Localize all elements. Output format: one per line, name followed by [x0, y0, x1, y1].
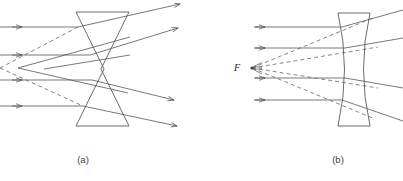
- optics-figure: (a): [0, 0, 403, 181]
- virtual-extension-b-1: [252, 17, 375, 68]
- refracted-ray-2: [90, 28, 178, 55]
- virtual-extension-b-4: [252, 68, 375, 119]
- concave-lens-outline-a: [76, 12, 129, 126]
- virtual-extension-b-2: [252, 47, 378, 68]
- refracted-ray-b-3: [345, 78, 403, 88]
- panel-b-incoming-rays: [254, 27, 345, 100]
- panel-b-virtual-extensions: [252, 17, 378, 119]
- panel-a-caption: (a): [77, 154, 89, 165]
- panel-a-incoming-rays: [0, 27, 92, 106]
- construction-line-2: [18, 68, 128, 93]
- panel-b-caption: (b): [332, 154, 344, 165]
- panel-a-refracted-rays: [78, 4, 180, 126]
- panel-a: (a): [0, 4, 180, 165]
- refracted-ray-b-4: [342, 100, 403, 121]
- focal-point-label: F: [233, 62, 241, 73]
- refracted-ray-1: [78, 4, 180, 27]
- panel-a-virtual-extensions: [0, 27, 83, 106]
- panel-a-construction-lines: [18, 37, 130, 93]
- panel-b: F (b): [233, 10, 403, 165]
- figure-canvas: (a): [0, 0, 403, 181]
- refracted-ray-4: [83, 106, 177, 126]
- refracted-ray-3: [92, 80, 174, 100]
- construction-line-1: [18, 37, 130, 68]
- focal-point-marker: [250, 66, 253, 69]
- panel-a-lens: [76, 12, 129, 126]
- refracted-ray-b-2: [345, 38, 403, 48]
